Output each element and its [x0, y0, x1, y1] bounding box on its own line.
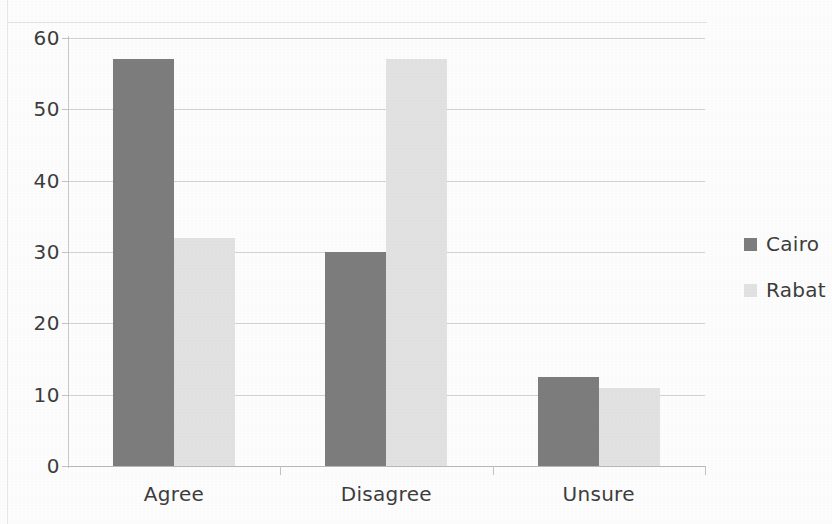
bar-cairo-agree: [113, 59, 174, 466]
legend-item-cairo[interactable]: Cairo: [744, 232, 826, 256]
y-tick-mark-50: [62, 109, 69, 110]
chart-legend: CairoRabat: [744, 232, 826, 324]
legend-swatch-rabat: [744, 284, 757, 297]
y-axis-labels: 0102030405060: [0, 0, 60, 524]
y-tick-label-60: 60: [8, 26, 60, 50]
bars-layer: [68, 38, 705, 466]
y-tick-label-30: 30: [8, 240, 60, 264]
y-tick-mark-30: [62, 252, 69, 253]
y-tick-label-50: 50: [8, 97, 60, 121]
bar-rabat-agree: [174, 238, 235, 466]
y-tick-mark-10: [62, 395, 69, 396]
y-tick-label-0: 0: [8, 454, 60, 478]
bar-cairo-disagree: [325, 252, 386, 466]
legend-label-cairo: Cairo: [766, 232, 819, 256]
y-tick-mark-0: [62, 466, 69, 467]
legend-swatch-cairo: [744, 238, 757, 251]
y-tick-label-10: 10: [8, 383, 60, 407]
y-tick-mark-60: [62, 38, 69, 39]
x-tick-mark-1: [280, 466, 281, 475]
x-tick-label-unsure: Unsure: [509, 482, 689, 506]
x-tick-mark-2: [493, 466, 494, 475]
x-tick-label-agree: Agree: [84, 482, 264, 506]
y-tick-label-20: 20: [8, 311, 60, 335]
scan-edge-top: [7, 22, 707, 23]
y-tick-label-40: 40: [8, 169, 60, 193]
bar-chart: 0102030405060 AgreeDisagreeUnsure CairoR…: [0, 0, 832, 524]
x-tick-label-disagree: Disagree: [296, 482, 476, 506]
legend-item-rabat[interactable]: Rabat: [744, 278, 826, 302]
bar-cairo-unsure: [538, 377, 599, 466]
y-tick-mark-40: [62, 181, 69, 182]
x-tick-mark-end: [705, 466, 706, 475]
bar-rabat-unsure: [599, 388, 660, 466]
bar-rabat-disagree: [386, 59, 447, 466]
x-axis-line: [68, 466, 706, 467]
legend-label-rabat: Rabat: [766, 278, 826, 302]
y-tick-mark-20: [62, 323, 69, 324]
